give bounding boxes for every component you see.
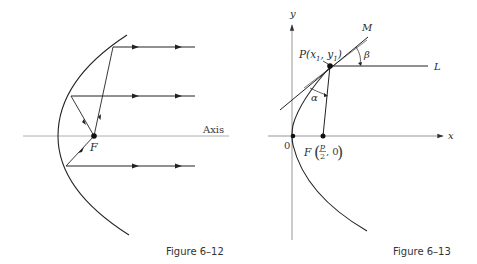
line-m-label: M: [361, 22, 373, 33]
arrow-icon: [358, 62, 362, 66]
angle-beta-arc: [356, 47, 361, 64]
origin-point: [291, 134, 296, 139]
origin-label: 0: [284, 140, 290, 151]
y-axis-label: y: [289, 8, 296, 19]
svg-text:p: p: [320, 142, 325, 151]
figures-canvas: Axis F Figure 6–12 y x: [0, 0, 477, 264]
ray-arrowheads: [132, 45, 182, 169]
ray-focus-middle: [71, 96, 94, 136]
figure-caption: Figure 6–13: [393, 246, 451, 257]
svg-text:F: F: [303, 146, 312, 158]
angle-alpha-label: α: [311, 92, 318, 103]
svg-text:): ): [337, 143, 343, 162]
svg-text:2: 2: [320, 152, 325, 161]
segment-pf: [323, 66, 330, 136]
axis-label: Axis: [202, 124, 224, 135]
arrow-icon: [82, 119, 86, 125]
point-p-pointer: [323, 61, 328, 64]
figure-caption: Figure 6–12: [166, 246, 224, 257]
point-p-label: P(x1, y1): [298, 48, 342, 63]
line-l-label: L: [433, 61, 441, 72]
focus-label: F: [89, 141, 98, 154]
figure-6-12: Axis F Figure 6–12: [23, 35, 229, 257]
focus-point: [91, 133, 97, 139]
point-p: [327, 63, 333, 69]
ray-focus-top: [94, 47, 113, 136]
focus-point: [321, 134, 326, 139]
focus-label: F ( p 2 , 0 ): [303, 142, 343, 162]
figure-6-13: y x M L β α P(x1, y1) 0: [268, 8, 454, 257]
angle-beta-label: β: [363, 49, 370, 60]
x-axis-label: x: [448, 130, 454, 141]
